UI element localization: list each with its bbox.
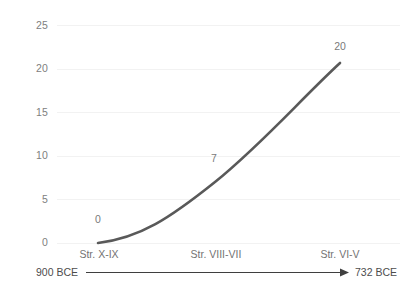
data-label-point-1: 0: [85, 214, 111, 225]
category-label-3: Str. VI-V: [300, 248, 380, 261]
timeline-arrowhead: [340, 269, 349, 277]
category-label-1: Str. X-IX: [58, 248, 140, 261]
data-label-point-3: 20: [325, 41, 355, 52]
series-line-chart: [0, 0, 416, 250]
plot-area: 25 20 15 10 5 0 0 7 20: [0, 0, 416, 250]
timeline-arrow-icon: [0, 264, 416, 284]
category-axis: Str. X-IX Str. VIII-VII Str. VI-V: [0, 248, 416, 264]
category-label-2: Str. VIII-VII: [172, 248, 260, 261]
chart-figure: 25 20 15 10 5 0 0 7 20 Str. X-IX Str. VI…: [0, 0, 416, 293]
timeline-axis: 900 BCE 732 BCE: [0, 264, 416, 284]
data-label-point-2: 7: [201, 153, 227, 164]
timeline-end-label: 732 BCE: [355, 265, 397, 279]
